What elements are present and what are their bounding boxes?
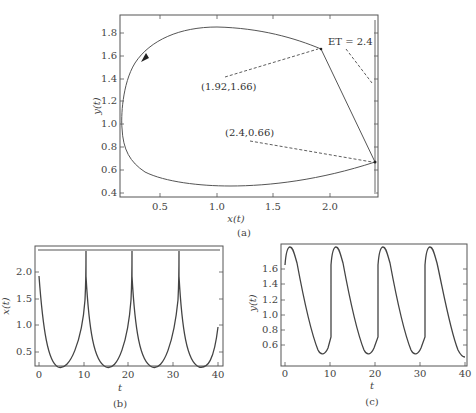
panel-c-xtick: 30	[414, 368, 427, 379]
annotation-top-point: (1.92,1.66)	[201, 81, 257, 92]
panel-b-xtick: 20	[122, 369, 135, 380]
point-top	[320, 48, 323, 51]
caption-a: (a)	[237, 227, 251, 238]
panel-b-ytick: 0.5	[16, 346, 32, 357]
panel-a-ytick: 1.0	[101, 118, 117, 129]
panel-a-xtick: 1.5	[265, 201, 281, 212]
panel-b-xtick: 30	[167, 369, 180, 380]
impulsive-jump-line	[321, 49, 375, 162]
panel-a-xtick: 0.5	[152, 201, 168, 212]
x-of-t-curve	[39, 251, 218, 368]
panel-b-frame	[35, 246, 223, 366]
panel-b-ytick: 2.0	[16, 266, 32, 277]
panel-c-y-vs-t: 0 10 20 30 40 0.6 0.8 1.0 1.2 1.4 1.6 t …	[247, 244, 471, 407]
panel-c-xtick: 20	[369, 368, 382, 379]
panel-a-ytick: 0.8	[101, 141, 117, 152]
panel-c-xlabel: t	[370, 380, 375, 391]
panel-a-ytick: 0.4	[101, 187, 117, 198]
panel-c-ytick: 1.6	[262, 263, 278, 274]
annotation-bottom-point: (2.4,0.66)	[225, 127, 274, 138]
panel-b-ytick: 1.5	[16, 293, 32, 304]
panel-a-xtick: 1.0	[209, 201, 225, 212]
panel-c-xtick: 10	[324, 368, 337, 379]
panel-a-ytick: 1.8	[101, 27, 117, 38]
panel-b-xtick: 0	[36, 369, 42, 380]
panel-c-ytick: 1.4	[262, 278, 278, 289]
panel-a-ylabel: y(t)	[91, 97, 102, 116]
panel-a-ytick: 1.2	[101, 95, 117, 106]
panel-a-ytick: 1.6	[101, 50, 117, 61]
annotation-et: ET = 2.4	[328, 36, 373, 47]
panel-b-xlabel: t	[118, 382, 123, 393]
panel-a-phase-plane: 0.5 1.0 1.5 2.0 0.4 0.6 0.8 1.0 1.2 1.4 …	[91, 15, 378, 238]
panel-a-ytick: 0.6	[101, 164, 117, 175]
annotation-leader-bottom	[250, 141, 372, 162]
caption-b: (b)	[113, 398, 127, 409]
panel-c-ytick: 0.8	[262, 324, 278, 335]
panel-a-ytick: 1.4	[101, 73, 117, 84]
y-of-t-curve	[285, 247, 465, 357]
panel-c-ytick: 1.2	[262, 294, 278, 305]
panel-a-xtick: 2.0	[322, 201, 338, 212]
limit-cycle-trajectory	[122, 27, 375, 186]
panel-a-xlabel: x(t)	[227, 213, 245, 224]
panel-b-xtick: 40	[212, 369, 225, 380]
panel-c-ylabel: y(t)	[247, 294, 258, 313]
panel-b-x-vs-t: 0 10 20 30 40 0.5 1.0 1.5 2.0 t x(t) (b)	[0, 246, 224, 409]
panel-c-xtick: 40	[459, 368, 472, 379]
annotation-leader-et	[346, 49, 372, 83]
annotation-leader-top	[225, 49, 318, 77]
panel-b-ylabel: x(t)	[0, 297, 11, 315]
panel-c-ytick: 0.6	[262, 339, 278, 350]
panel-b-xtick: 10	[78, 369, 91, 380]
panel-c-xtick: 0	[282, 368, 288, 379]
figure: 0.5 1.0 1.5 2.0 0.4 0.6 0.8 1.0 1.2 1.4 …	[0, 0, 476, 413]
panel-c-ytick: 1.0	[262, 309, 278, 320]
point-bottom	[374, 161, 377, 164]
caption-c: (c)	[365, 396, 379, 407]
panel-b-ytick: 1.0	[16, 319, 32, 330]
